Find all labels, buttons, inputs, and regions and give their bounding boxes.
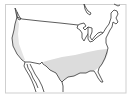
range-map: Range map of the United States bbox=[0, 0, 129, 104]
map-canvas bbox=[0, 0, 129, 104]
